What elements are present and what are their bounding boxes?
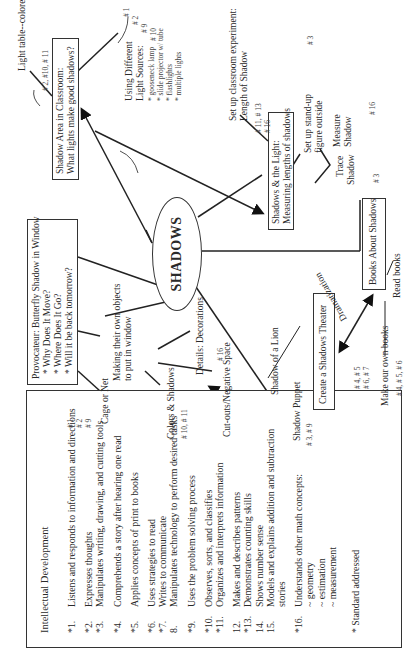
details-label: Details: Decorations — [195, 297, 206, 375]
standard-subitem: ~ measurement — [327, 405, 338, 633]
books-box: Books About Shadows — [362, 198, 386, 290]
standard-item: *4.Comprehends a story after hearing one… — [112, 405, 123, 633]
shadow-area-box: Shadow Area in Classroom: What lights ma… — [52, 38, 79, 180]
theater-box: Create a Shadows Theater — [313, 293, 335, 410]
standards-box: Intellectual Development *1.Listens and … — [26, 390, 402, 648]
trace-label: Trace — [335, 156, 346, 177]
standard-item: *9.Uses the problem solving process — [186, 405, 197, 633]
read-books-label: Read books — [392, 253, 403, 298]
making-objects-label: Making their own objects — [112, 284, 123, 381]
standard-item: *2.Expresses thoughts — [83, 405, 94, 633]
shadow-area-standards: # 2, #10, # 11 — [41, 50, 50, 91]
standard-item: *11.Organizes and interprets information — [214, 405, 225, 633]
center-topic-shadows: SHADOWS — [152, 197, 202, 311]
cutouts-label: Cut-outs/Negative Space — [222, 342, 233, 437]
web-diagram: Intellectual Development *1.Listens and … — [0, 0, 417, 661]
standard-item: 12.Makes and describes patterns — [231, 405, 242, 633]
make-books-label: Make our own books — [380, 326, 391, 406]
provocateur-box: Provocateur: Butterfly Shadow in Window … — [27, 219, 78, 385]
standard-item: *13.Demonstrates counting skills — [242, 405, 253, 633]
light-source-item: * flashlights — [165, 64, 174, 101]
light-source-item: * gooseneck lamp — [147, 47, 156, 101]
standards-title: Intellectual Development — [39, 405, 50, 633]
standard-item: *5.Applies concepts of print to books — [129, 405, 140, 633]
standard-item: *1.Listens and responds to information a… — [66, 405, 77, 633]
standard-subitem: ~ estimation — [316, 405, 327, 633]
standard-item: *3.Manipulates writing, drawing, and cut… — [94, 405, 105, 633]
standard-item: *10.Observes, sorts, and classifies — [203, 405, 214, 633]
standard-item: *7.Writes to communicate — [157, 405, 168, 633]
standards-footnote: * Standard addressed — [350, 405, 361, 633]
puppet-label: Shadow Puppet — [292, 382, 303, 441]
light-source-item: * multiple lights — [174, 52, 183, 101]
standard-item: 14.Shows number sense — [254, 405, 265, 633]
experiment-label: Set up classroom experiment: — [228, 8, 239, 121]
light-table-note: Light table--colored light? — [17, 0, 28, 71]
light-sources-title: Using Different — [124, 41, 135, 101]
measure-label: Measure — [332, 114, 343, 147]
standard-item: *6.Uses strategies to read — [146, 405, 157, 633]
lion-label: Shadow of a Lion — [270, 327, 281, 395]
cage-label: Cage or Net — [100, 378, 111, 424]
standard-item: 8.Manipulates technology to perform desi… — [168, 405, 179, 633]
standup-label: Set up stand-up — [303, 94, 314, 153]
colors-label: Colors & Shadows — [166, 367, 177, 439]
standard-item: 15.Models and explains addition and subt… — [265, 405, 287, 633]
